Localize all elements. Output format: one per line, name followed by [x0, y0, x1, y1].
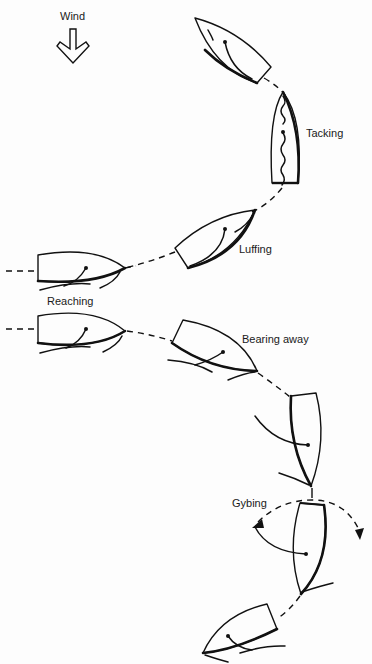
- bearing-away-label: Bearing away: [242, 334, 309, 345]
- boat-reaching-1-icon: [38, 252, 125, 290]
- boat-luffing-icon: [175, 210, 255, 268]
- course-line: [125, 252, 175, 268]
- boat-after-gybe-icon: [203, 604, 285, 662]
- boat-running-icon: [255, 393, 321, 486]
- tacking-label: Tacking: [306, 128, 343, 139]
- gybing-label: Gybing: [232, 498, 267, 509]
- luffing-label: Luffing: [239, 244, 272, 255]
- diagram-canvas: [0, 0, 372, 664]
- gybe-arc-icon: [252, 500, 364, 540]
- course-line: [252, 188, 282, 212]
- wind-arrow-icon: [57, 29, 89, 63]
- boat-bearing-away-icon: [168, 320, 257, 380]
- boat-gybing-icon: [255, 503, 333, 594]
- sailing-diagram: Wind Tacking Luffing Reaching Bearing aw…: [0, 0, 372, 664]
- wind-label: Wind: [60, 11, 85, 22]
- course-line: [125, 266, 136, 268]
- boat-close-hauled-icon: [195, 18, 271, 83]
- boat-reaching-2-icon: [38, 313, 125, 353]
- course-line: [258, 373, 290, 397]
- reaching-label: Reaching: [47, 296, 93, 307]
- course-line: [278, 596, 300, 618]
- boat-tacking-icon: [271, 92, 299, 185]
- course-line: [127, 331, 172, 341]
